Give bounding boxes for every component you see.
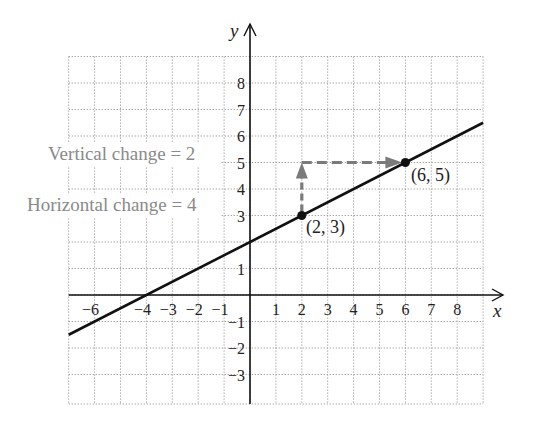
x-tick-label: 7 [427,301,435,318]
horizontal-change-label: Horizontal change = 4 [27,194,197,215]
point-label-6-5: (6, 5) [411,165,450,186]
x-tick-label: −3 [160,301,177,318]
y-tick-label: 8 [237,75,245,92]
y-tick-label: 6 [237,128,245,145]
change-arrows [296,157,403,212]
x-tick-label: −4 [134,301,151,318]
x-tick-label: −2 [186,301,203,318]
y-tick-label: 4 [237,181,245,198]
x-tick-label: −6 [82,301,99,318]
x-tick-label: 1 [272,301,280,318]
y-tick-label: 3 [237,208,245,225]
y-tick-label: 7 [237,102,245,119]
vertical-change-arrow-head-icon [296,163,308,179]
y-axis-label: y [228,20,239,41]
tick-labels: −6−4−3−2−1123456788765431−1−2−3 [82,75,461,384]
point-label-2-3: (2, 3) [306,217,345,238]
x-tick-label: −1 [212,301,229,318]
x-axis-label: x [492,300,502,321]
point-6-5 [401,158,410,167]
y-tick-label: −3 [228,367,245,384]
y-tick-label: 5 [237,155,245,172]
x-tick-label: 3 [324,301,332,318]
coordinate-plane-chart: −6−4−3−2−1123456788765431−1−2−3 y x Vert… [0,0,539,422]
x-tick-label: 8 [453,301,461,318]
point-2-3 [297,211,306,220]
y-tick-label: −1 [228,314,245,331]
x-tick-label: 5 [376,301,384,318]
y-tick-label: 1 [237,261,245,278]
chart-svg: −6−4−3−2−1123456788765431−1−2−3 y x Vert… [0,0,539,422]
grid [69,57,483,405]
x-tick-label: 2 [298,301,306,318]
vertical-change-label: Vertical change = 2 [48,143,195,164]
x-tick-label: 4 [350,301,358,318]
y-tick-label: −2 [228,340,245,357]
x-tick-label: 6 [401,301,409,318]
